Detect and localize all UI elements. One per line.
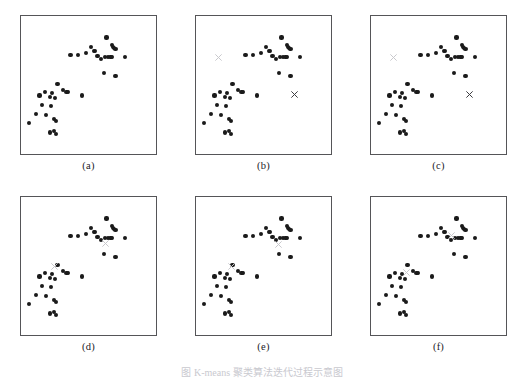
data-point — [243, 234, 247, 238]
data-point — [298, 236, 302, 240]
data-point — [259, 232, 263, 236]
data-point — [399, 285, 403, 289]
centroid-marker — [214, 53, 223, 62]
scatter-panel-b — [195, 15, 332, 155]
data-point — [255, 93, 259, 97]
scatter-panel-f — [370, 196, 507, 336]
data-point — [202, 121, 206, 125]
data-point — [463, 47, 467, 51]
data-point — [430, 274, 434, 278]
data-point — [473, 55, 477, 59]
data-point — [218, 271, 222, 275]
data-point — [84, 51, 88, 55]
scatter-panel-d — [20, 196, 157, 336]
data-point — [209, 112, 213, 116]
data-point — [104, 35, 108, 39]
data-point — [229, 313, 233, 317]
data-point — [48, 276, 52, 280]
data-point — [102, 252, 106, 256]
plot-area-a — [20, 15, 157, 155]
data-point — [259, 51, 263, 55]
data-point — [54, 119, 58, 123]
data-point — [418, 53, 422, 57]
data-point — [416, 271, 420, 275]
data-point — [384, 112, 388, 116]
data-point — [398, 95, 402, 99]
data-point — [230, 82, 234, 86]
centroid-marker — [274, 240, 283, 249]
data-point — [110, 236, 114, 240]
data-point — [277, 71, 281, 75]
data-point — [452, 71, 456, 75]
data-point — [40, 284, 44, 288]
data-point — [212, 274, 216, 278]
data-point — [277, 252, 281, 256]
data-point — [463, 255, 467, 259]
data-point — [44, 113, 48, 117]
data-point — [426, 53, 430, 57]
data-point — [110, 55, 114, 59]
data-point — [209, 293, 213, 297]
data-point — [403, 96, 407, 100]
data-point — [84, 232, 88, 236]
panel-label-d: (d) — [20, 341, 157, 352]
data-point — [54, 132, 58, 136]
data-point — [43, 271, 47, 275]
data-point — [228, 277, 232, 281]
data-point — [113, 47, 117, 51]
data-point — [384, 293, 388, 297]
data-point — [454, 216, 458, 220]
data-point — [229, 300, 233, 304]
data-point — [268, 230, 272, 234]
data-point — [279, 35, 283, 39]
data-point — [434, 232, 438, 236]
data-point — [387, 93, 391, 97]
data-point — [452, 252, 456, 256]
data-point — [54, 300, 58, 304]
data-point — [102, 71, 106, 75]
data-point — [49, 285, 53, 289]
plot-area-c — [370, 15, 507, 155]
data-point — [434, 51, 438, 55]
data-point — [377, 302, 381, 306]
data-point — [68, 53, 72, 57]
data-point — [398, 276, 402, 280]
data-point — [215, 103, 219, 107]
data-point — [288, 255, 292, 259]
data-point — [223, 95, 227, 99]
data-point — [37, 274, 41, 278]
plot-area-e — [195, 196, 332, 336]
data-point — [298, 55, 302, 59]
data-point — [219, 113, 223, 117]
data-point — [393, 271, 397, 275]
data-point — [44, 294, 48, 298]
data-point — [80, 274, 84, 278]
data-point — [251, 53, 255, 57]
data-point — [251, 234, 255, 238]
data-point — [285, 55, 289, 59]
data-point — [224, 104, 228, 108]
data-point — [405, 82, 409, 86]
panel-label-e: (e) — [195, 341, 332, 352]
centroid-marker — [389, 53, 398, 62]
scatter-panel-a — [20, 15, 157, 155]
data-point — [43, 90, 47, 94]
data-point — [80, 93, 84, 97]
data-point — [394, 113, 398, 117]
data-point — [418, 234, 422, 238]
centroid-marker — [465, 90, 474, 99]
data-point — [285, 236, 289, 240]
data-point — [113, 255, 117, 259]
data-point — [93, 49, 97, 53]
data-point — [255, 274, 259, 278]
data-point — [404, 300, 408, 304]
data-point — [473, 236, 477, 240]
data-point — [416, 90, 420, 94]
data-point — [390, 103, 394, 107]
data-point — [55, 263, 59, 267]
data-point — [27, 121, 31, 125]
scatter-panel-e — [195, 196, 332, 336]
data-point — [53, 96, 57, 100]
data-point — [443, 230, 447, 234]
